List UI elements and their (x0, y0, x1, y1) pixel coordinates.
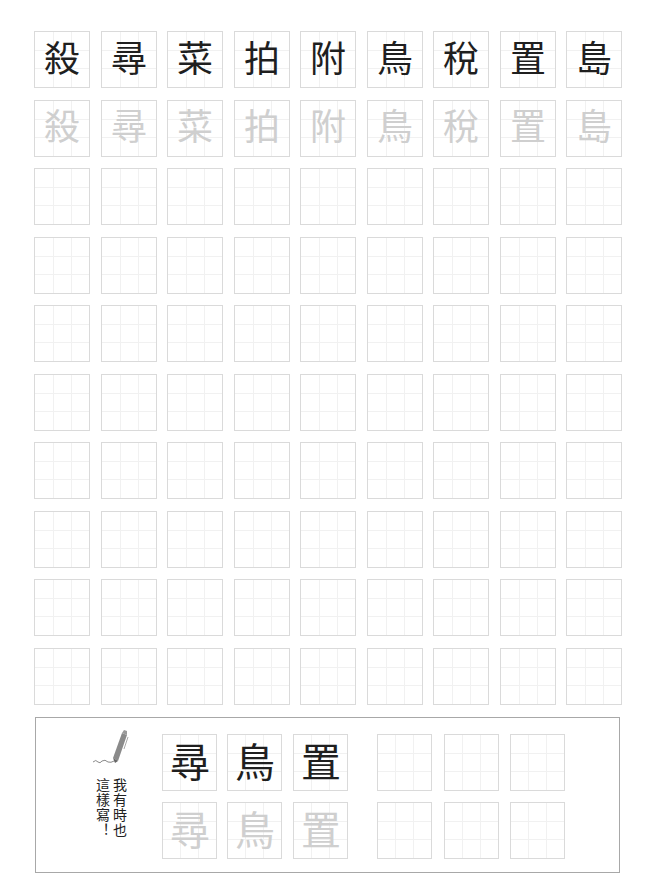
blank-practice-cell (433, 305, 489, 362)
variant-blank-cell (510, 802, 565, 859)
model-char-cell: 殺 (34, 31, 90, 88)
blank-practice-cell (234, 511, 290, 568)
blank-practice-cell (566, 374, 622, 431)
blank-practice-cell (367, 442, 423, 499)
model-char-cell: 鳥 (367, 31, 423, 88)
blank-practice-cell (101, 237, 157, 294)
blank-practice-cell (167, 168, 223, 225)
blank-practice-cell (367, 305, 423, 362)
blank-practice-cell (234, 442, 290, 499)
blank-practice-cell (367, 374, 423, 431)
practice-grid: 殺 尋 菜 拍 附 鳥 稅 置 島 殺 尋 菜 拍 附 鳥 稅 置 島 (34, 31, 622, 705)
blank-practice-cell (234, 305, 290, 362)
blank-practice-cell (34, 237, 90, 294)
model-char-cell: 尋 (101, 31, 157, 88)
blank-practice-cell (234, 237, 290, 294)
variant-blank-cell (377, 802, 432, 859)
variant-model-char-cell: 鳥 (227, 734, 282, 791)
blank-practice-cell (167, 305, 223, 362)
blank-practice-cell (101, 648, 157, 705)
variant-forms-box: 我有時也 這樣寫！ 尋 鳥 置 尋 鳥 置 (35, 717, 620, 873)
model-char-cell: 稅 (433, 31, 489, 88)
trace-char-cell: 尋 (101, 100, 157, 157)
blank-practice-cell (500, 511, 556, 568)
blank-practice-cell (367, 511, 423, 568)
blank-practice-cell (300, 237, 356, 294)
variant-model-char-cell: 置 (293, 734, 348, 791)
trace-char-cell: 菜 (167, 100, 223, 157)
variant-model-char-cell: 尋 (162, 734, 217, 791)
blank-practice-cell (566, 442, 622, 499)
blank-practice-cell (566, 579, 622, 636)
blank-practice-cell (367, 237, 423, 294)
model-char-cell: 菜 (167, 31, 223, 88)
blank-practice-cell (433, 374, 489, 431)
blank-practice-cell (234, 579, 290, 636)
blank-practice-cell (433, 648, 489, 705)
blank-practice-cell (566, 511, 622, 568)
blank-practice-cell (300, 511, 356, 568)
blank-practice-cell (167, 237, 223, 294)
blank-practice-cell (500, 374, 556, 431)
blank-practice-cell (500, 579, 556, 636)
blank-practice-cell (167, 579, 223, 636)
blank-practice-cell (101, 168, 157, 225)
caption-line: 這樣寫！ (93, 778, 110, 838)
blank-practice-cell (433, 168, 489, 225)
blank-practice-cell (101, 442, 157, 499)
blank-practice-cell (367, 648, 423, 705)
blank-practice-cell (34, 305, 90, 362)
blank-practice-cell (234, 648, 290, 705)
trace-char-cell: 島 (566, 100, 622, 157)
blank-practice-cell (367, 579, 423, 636)
blank-practice-cell (433, 442, 489, 499)
blank-practice-cell (566, 648, 622, 705)
blank-practice-cell (34, 374, 90, 431)
blank-practice-cell (433, 511, 489, 568)
trace-char-cell: 置 (500, 100, 556, 157)
model-char-cell: 拍 (234, 31, 290, 88)
model-char-cell: 置 (500, 31, 556, 88)
variant-trace-char-cell: 尋 (162, 802, 217, 859)
blank-practice-cell (500, 305, 556, 362)
blank-practice-cell (300, 579, 356, 636)
blank-practice-cell (34, 511, 90, 568)
caption-line: 我有時也 (110, 778, 127, 838)
blank-practice-cell (234, 374, 290, 431)
blank-practice-cell (34, 442, 90, 499)
blank-practice-cell (500, 168, 556, 225)
variant-blank-cell (444, 734, 499, 791)
variant-blank-cell (510, 734, 565, 791)
variant-blank-cell (444, 802, 499, 859)
blank-practice-cell (101, 305, 157, 362)
blank-practice-cell (167, 374, 223, 431)
blank-practice-cell (167, 442, 223, 499)
blank-practice-cell (500, 442, 556, 499)
blank-practice-cell (300, 305, 356, 362)
blank-practice-cell (300, 374, 356, 431)
pen-icon (91, 729, 131, 767)
blank-practice-cell (500, 648, 556, 705)
blank-practice-cell (566, 168, 622, 225)
variant-blank-cell (377, 734, 432, 791)
blank-practice-cell (566, 237, 622, 294)
blank-practice-cell (34, 579, 90, 636)
trace-char-cell: 鳥 (367, 100, 423, 157)
blank-practice-cell (101, 374, 157, 431)
variant-trace-char-cell: 鳥 (227, 802, 282, 859)
blank-practice-cell (433, 579, 489, 636)
model-char-cell: 附 (300, 31, 356, 88)
trace-char-cell: 附 (300, 100, 356, 157)
blank-practice-cell (367, 168, 423, 225)
trace-char-cell: 殺 (34, 100, 90, 157)
blank-practice-cell (101, 579, 157, 636)
blank-practice-cell (433, 237, 489, 294)
blank-practice-cell (300, 442, 356, 499)
variant-caption: 我有時也 這樣寫！ (93, 778, 127, 838)
blank-practice-cell (34, 168, 90, 225)
blank-practice-cell (34, 648, 90, 705)
blank-practice-cell (234, 168, 290, 225)
blank-practice-cell (101, 511, 157, 568)
model-char-cell: 島 (566, 31, 622, 88)
trace-char-cell: 拍 (234, 100, 290, 157)
